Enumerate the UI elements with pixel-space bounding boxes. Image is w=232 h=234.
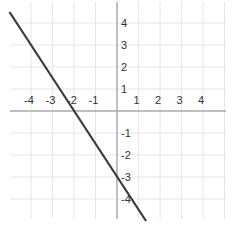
x-tick-label: 3 [176,94,182,106]
x-tick-label: 4 [198,94,204,106]
y-tick-label: 1 [121,83,127,95]
x-tick-label: 2 [155,94,161,106]
y-tick-label: -1 [121,127,131,139]
x-tick-label: -4 [24,94,34,106]
y-tick-label: -3 [121,171,131,183]
x-tick-label: -1 [89,94,99,106]
x-tick-label: -3 [46,94,56,106]
coordinate-plane: -4-3-2-11234 4321-1-2-3-4 [0,0,232,234]
x-tick-labels: -4-3-2-11234 [24,94,204,106]
x-tick-label: 1 [133,94,139,106]
y-tick-label: 2 [121,61,127,73]
y-tick-label: -2 [121,149,131,161]
y-tick-label: 4 [121,17,127,29]
y-tick-label: 3 [121,39,127,51]
axes [10,2,226,219]
